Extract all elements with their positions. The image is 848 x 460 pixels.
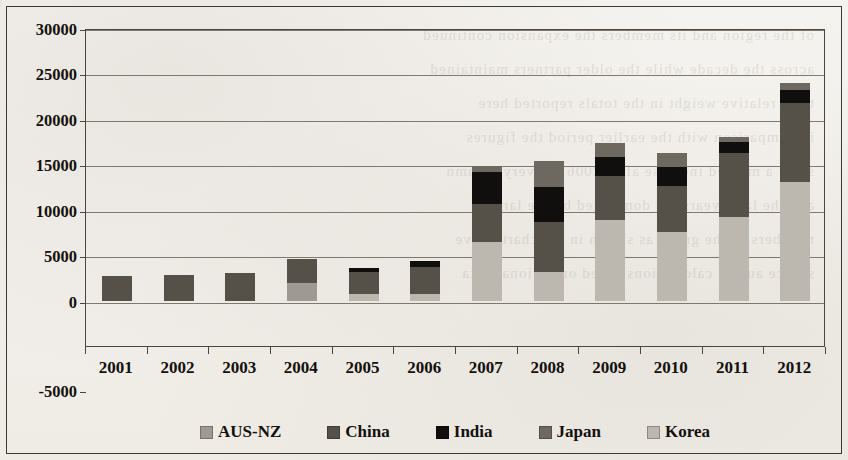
bar-segment-china[interactable]	[102, 276, 132, 301]
x-axis-tick-mark	[85, 347, 86, 354]
bar-segment-korea[interactable]	[595, 220, 625, 301]
bar-segment-china[interactable]	[534, 222, 564, 271]
bar-segment-korea[interactable]	[472, 242, 502, 300]
bar-segment-korea[interactable]	[657, 232, 687, 300]
legend-swatch-icon	[327, 426, 340, 439]
y-axis-tick-label: 30000	[36, 20, 77, 40]
y-axis-tick-mark	[80, 392, 86, 393]
bar-stack[interactable]	[225, 273, 255, 301]
x-axis-tick-label: 2006	[407, 358, 441, 378]
x-axis: 2001200220032004200520062007200820092010…	[85, 347, 825, 348]
x-axis-tick-mark	[270, 347, 271, 354]
bar-segment-china[interactable]	[349, 272, 379, 294]
bar-segment-japan[interactable]	[595, 143, 625, 157]
legend-label: India	[454, 422, 493, 442]
bar-segment-china[interactable]	[287, 259, 317, 284]
x-axis-tick-label: 2004	[284, 358, 318, 378]
x-axis-tick-label: 2002	[161, 358, 195, 378]
bar-segment-korea[interactable]	[780, 182, 810, 301]
x-axis-tick-label: 2010	[654, 358, 688, 378]
x-axis-tick-label: 2005	[346, 358, 380, 378]
bar-stack[interactable]	[657, 153, 687, 301]
x-axis-tick-mark	[147, 347, 148, 354]
bar-segment-china[interactable]	[164, 275, 194, 301]
bar-stack[interactable]	[719, 137, 749, 301]
y-axis-tick-label: 0	[69, 293, 77, 313]
chart-legend: AUS-NZChinaIndiaJapanKorea	[85, 422, 825, 442]
y-axis-tick-label: 5000	[44, 247, 77, 267]
legend-swatch-icon	[436, 426, 449, 439]
bar-segment-aus-nz[interactable]	[287, 283, 317, 300]
bar-segment-china[interactable]	[719, 153, 749, 218]
legend-swatch-icon	[200, 426, 213, 439]
bar-segment-india[interactable]	[595, 157, 625, 176]
bar-segment-china[interactable]	[472, 204, 502, 242]
legend-label: Korea	[665, 422, 710, 442]
bar-segment-japan[interactable]	[657, 153, 687, 168]
x-axis-tick-mark	[208, 347, 209, 354]
x-axis-tick-mark	[702, 347, 703, 354]
y-axis-tick-label: 15000	[36, 156, 77, 176]
legend-label: AUS-NZ	[218, 422, 281, 442]
bar-segment-india[interactable]	[780, 90, 810, 103]
bar-stack[interactable]	[349, 268, 379, 300]
bar-segment-india[interactable]	[534, 187, 564, 222]
bar-segment-china[interactable]	[225, 273, 255, 301]
x-axis-tick-mark	[825, 347, 826, 354]
plot-area: 300002500020000150001000050000-5000	[85, 29, 825, 347]
x-axis-tick-mark	[640, 347, 641, 354]
legend-item[interactable]: China	[327, 422, 389, 442]
x-axis-tick-mark	[332, 347, 333, 354]
legend-swatch-icon	[539, 426, 552, 439]
bar-segment-korea[interactable]	[410, 294, 440, 300]
x-axis-tick-mark	[763, 347, 764, 354]
bar-stack[interactable]	[595, 143, 625, 300]
x-axis-tick-label: 2011	[716, 358, 749, 378]
x-axis-tick-label: 2012	[777, 358, 811, 378]
y-axis-tick-label: 10000	[36, 202, 77, 222]
y-axis-tick-label: 20000	[36, 111, 77, 131]
x-axis-tick-label: 2008	[531, 358, 565, 378]
legend-item[interactable]: Japan	[539, 422, 601, 442]
bar-stack[interactable]	[287, 259, 317, 301]
bar-stack[interactable]	[102, 276, 132, 301]
x-axis-tick-mark	[517, 347, 518, 354]
bar-segment-korea[interactable]	[534, 272, 564, 301]
bar-stack[interactable]	[534, 161, 564, 301]
x-axis-tick-mark	[393, 347, 394, 354]
bar-segment-china[interactable]	[657, 186, 687, 232]
legend-item[interactable]: AUS-NZ	[200, 422, 281, 442]
chart-figure: 300002500020000150001000050000-5000 2001…	[6, 6, 842, 454]
bar-stack[interactable]	[472, 166, 502, 300]
bar-segment-korea[interactable]	[719, 217, 749, 301]
y-axis-tick-label: 25000	[36, 65, 77, 85]
legend-swatch-icon	[647, 426, 660, 439]
legend-item[interactable]: Korea	[647, 422, 710, 442]
bar-segment-india[interactable]	[472, 172, 502, 204]
x-axis-tick-label: 2007	[469, 358, 503, 378]
legend-item[interactable]: India	[436, 422, 493, 442]
x-axis-tick-label: 2003	[222, 358, 256, 378]
x-axis-tick-label: 2009	[592, 358, 626, 378]
legend-label: Japan	[557, 422, 601, 442]
bar-segment-india[interactable]	[719, 142, 749, 153]
x-axis-tick-mark	[455, 347, 456, 354]
bar-segment-india[interactable]	[657, 167, 687, 186]
bar-segment-korea[interactable]	[349, 294, 379, 300]
bar-segment-china[interactable]	[780, 103, 810, 182]
x-axis-tick-label: 2001	[99, 358, 133, 378]
bar-segment-japan[interactable]	[534, 161, 564, 187]
bar-stack[interactable]	[410, 261, 440, 301]
bar-segment-china[interactable]	[595, 176, 625, 220]
bar-stack[interactable]	[164, 275, 194, 301]
bar-segment-china[interactable]	[410, 267, 440, 294]
y-axis-tick-label: -5000	[39, 382, 78, 402]
legend-label: China	[345, 422, 389, 442]
x-axis-tick-mark	[578, 347, 579, 354]
bar-series-group	[86, 30, 824, 346]
bar-stack[interactable]	[780, 83, 810, 300]
